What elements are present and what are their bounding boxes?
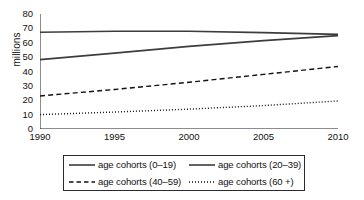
y-tick-label: 30: [11, 80, 33, 91]
y-tick-label: 10: [11, 109, 33, 120]
y-tick-label: 20: [11, 94, 33, 105]
chart-figure: millions 01020304050607080 1990199520002…: [0, 0, 364, 200]
y-tick-label: 50: [11, 51, 33, 62]
x-tick-label: 2010: [318, 131, 358, 142]
y-tick-label: 80: [11, 8, 33, 19]
chart-svg: [40, 14, 338, 129]
x-tick-label: 2000: [169, 131, 209, 142]
legend-label: age cohorts (0–19): [98, 159, 176, 170]
y-tick-label: 60: [11, 37, 33, 48]
plot-area: [40, 14, 338, 129]
legend-label: age cohorts (60 +): [218, 176, 294, 187]
legend-item-0-19[interactable]: age cohorts (0–19): [64, 159, 184, 170]
legend-item-20-39[interactable]: age cohorts (20–39): [184, 159, 304, 170]
x-tick-label: 2005: [244, 131, 284, 142]
legend-item-60-plus[interactable]: age cohorts (60 +): [184, 176, 304, 187]
x-tick-label: 1990: [20, 131, 60, 142]
legend-swatch-solid-icon: [189, 160, 215, 170]
legend-label: age cohorts (20–39): [218, 159, 301, 170]
y-tick-label: 40: [11, 66, 33, 77]
chart-legend: age cohorts (0–19) age cohorts (20–39) a…: [63, 155, 305, 191]
legend-item-40-59[interactable]: age cohorts (40–59): [64, 176, 184, 187]
legend-swatch-dotted-icon: [189, 177, 215, 187]
x-tick-label: 1995: [95, 131, 135, 142]
legend-swatch-solid-icon: [69, 160, 95, 170]
legend-swatch-dashed-icon: [69, 177, 95, 187]
y-tick-label: 70: [11, 22, 33, 33]
legend-label: age cohorts (40–59): [98, 176, 181, 187]
